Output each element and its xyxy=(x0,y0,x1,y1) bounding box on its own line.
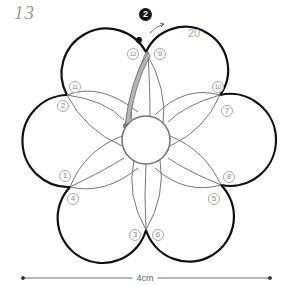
step-badge: 2 xyxy=(139,8,152,21)
pin-label: 2 xyxy=(57,100,69,112)
pin-label: 11 xyxy=(69,81,81,93)
start-dot xyxy=(136,37,142,43)
pin-label: 6 xyxy=(152,229,164,241)
step-number: 13 xyxy=(14,2,35,24)
pin-label: 7 xyxy=(221,105,233,117)
pin-label: 10 xyxy=(212,81,224,93)
pin-label: 5 xyxy=(208,193,220,205)
direction-arrow xyxy=(150,24,164,33)
pin-label: 3 xyxy=(129,229,141,241)
wind-count: 20 xyxy=(188,27,200,39)
pin-label: 12 xyxy=(127,48,139,60)
pin-label: 4 xyxy=(67,193,79,205)
center-circle xyxy=(122,116,170,164)
flower-drawing xyxy=(0,0,287,285)
highlighted-thread xyxy=(125,52,150,126)
flower-diagram: 13 2 20 4cm 123456789101112 xyxy=(0,0,287,285)
scale-label: 4cm xyxy=(132,273,157,283)
pin-label: 9 xyxy=(154,48,166,60)
pin-label: 8 xyxy=(223,171,235,183)
pin-label: 1 xyxy=(59,170,71,182)
